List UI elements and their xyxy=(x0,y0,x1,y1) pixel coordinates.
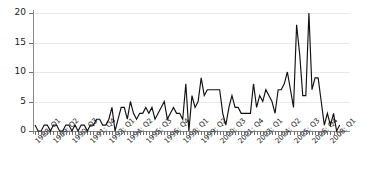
quarterly-line-chart: 05101520 1988: Q11989: Q21990: Q31991: Q… xyxy=(0,0,367,188)
series-line xyxy=(35,13,340,131)
series-svg xyxy=(0,0,367,188)
